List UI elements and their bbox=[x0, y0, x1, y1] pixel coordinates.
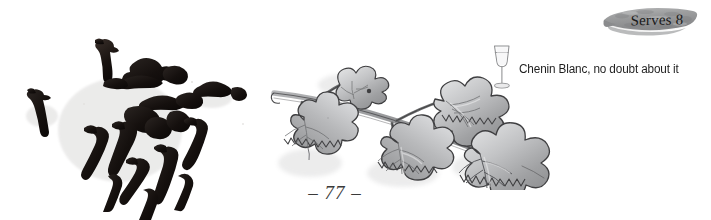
wine-glass-icon bbox=[487, 42, 517, 90]
cookbook-page: – 77 – Chenin Blanc, no doubt about it bbox=[0, 0, 711, 220]
wine-pairing-text: Chenin Blanc, no doubt about it bbox=[519, 62, 679, 76]
wine-pairing-note: Chenin Blanc, no doubt about it bbox=[487, 42, 689, 90]
serves-badge: Serves 8 bbox=[600, 2, 700, 38]
page-number: – 77 – bbox=[285, 182, 385, 204]
serves-badge-label: Serves 8 bbox=[599, 1, 700, 39]
cloves-photo bbox=[0, 0, 255, 220]
